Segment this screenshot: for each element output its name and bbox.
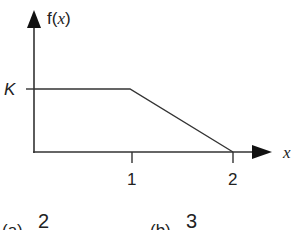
x-tick-label-1: 1	[127, 170, 136, 189]
level-label-k: K	[4, 80, 16, 99]
function-graph: f(x) K x 1 2 (a) 2 (b) 3	[0, 0, 300, 230]
x-tick-label-2: 2	[228, 170, 237, 189]
option-a-value: 2	[38, 210, 49, 230]
x-axis-label: x	[282, 143, 291, 162]
function-curve	[34, 89, 233, 152]
y-axis-arrow-icon	[27, 10, 41, 28]
option-b-label: (b)	[150, 221, 171, 230]
x-axis-arrow-icon	[252, 145, 272, 159]
option-b-value: 3	[186, 210, 197, 230]
option-a-label: (a)	[2, 221, 23, 230]
y-axis-label: f(x)	[47, 9, 71, 28]
